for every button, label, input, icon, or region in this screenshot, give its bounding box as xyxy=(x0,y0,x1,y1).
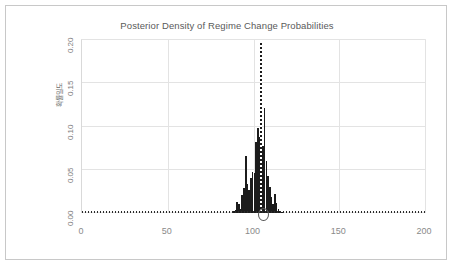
gridline-vertical xyxy=(339,40,340,213)
posterior-mode-marker xyxy=(258,208,269,221)
x-axis-tick-label: 200 xyxy=(404,226,444,236)
y-axis-tick-label: 0.10 xyxy=(66,124,75,168)
x-axis-tick-label: 100 xyxy=(233,226,273,236)
chart-frame: Posterior Density of Regime Change Proba… xyxy=(5,5,447,260)
y-axis-tick-label: 0.05 xyxy=(66,167,75,211)
y-axis-tick-label: 0.20 xyxy=(66,38,75,82)
x-axis-tick-label: 0 xyxy=(61,226,101,236)
x-axis-tick-label: 50 xyxy=(147,226,187,236)
peak-reference-line xyxy=(260,43,262,213)
y-axis-label: 확률밀도 xyxy=(54,60,64,130)
x-axis-tick-label: 150 xyxy=(318,226,358,236)
y-axis-tick-label: 0.15 xyxy=(66,81,75,125)
gridline-vertical xyxy=(425,40,426,213)
gridline-vertical xyxy=(168,40,169,213)
plot-area xyxy=(81,39,426,213)
chart-title: Posterior Density of Regime Change Proba… xyxy=(6,20,448,31)
zero-density-baseline xyxy=(82,211,425,213)
